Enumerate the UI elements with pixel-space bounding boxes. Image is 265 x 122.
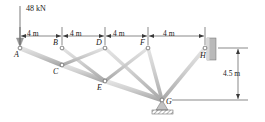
dimension-label-1: 4 m [27,30,38,38]
truss-drawing [0,0,265,122]
load-label: 48 kN [26,5,46,13]
joint-C [60,63,64,67]
member-A-C [20,48,62,65]
joint-F [146,46,150,50]
joint-B [60,46,64,50]
member-G-H [162,48,205,100]
dimension-label-vertical: 4.5 m [223,70,240,78]
node-label-G: G [166,98,172,106]
node-label-E: E [97,84,102,92]
node-label-H: H [200,52,206,60]
dimension-label-2: 4 m [70,30,81,38]
node-label-B: B [53,39,58,47]
member-B-E [62,48,105,81]
joint-E [103,79,107,83]
dimension-label-4: 4 m [163,30,174,38]
node-label-D: D [96,39,102,47]
joint-G [160,98,164,102]
node-label-C: C [53,68,58,76]
truss-diagram: 48 kN 4 m 4 m 4 m 4 m 4.5 m A B C D E F … [0,0,265,122]
node-label-F: F [140,39,145,47]
joint-H [203,46,207,50]
truss-members [20,48,205,100]
joint-D [103,46,107,50]
dimension-label-3: 4 m [113,30,124,38]
member-C-E [62,65,105,81]
node-label-A: A [14,51,19,59]
wall-support-H [207,38,216,60]
